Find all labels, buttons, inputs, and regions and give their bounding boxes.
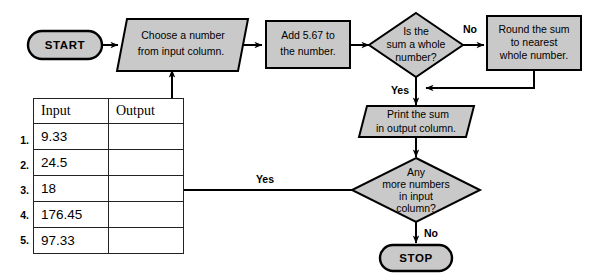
row-number-2: 2. bbox=[11, 159, 29, 171]
add-line-1: Add 5.67 to bbox=[281, 29, 335, 41]
anymore-line-3: in input bbox=[399, 190, 433, 202]
node-any-more-numbers[interactable]: Any more numbers in input column? bbox=[352, 158, 480, 222]
round-line-1: Round the sum bbox=[498, 23, 569, 35]
input-output-table-wrap: Input Output 9.33 24.5 18 176.4 bbox=[33, 98, 184, 254]
stop-label: STOP bbox=[399, 252, 433, 264]
edge-label-anymore-yes: Yes bbox=[256, 173, 274, 185]
print-line-2: in output column. bbox=[376, 122, 456, 134]
cell-output-2[interactable] bbox=[109, 150, 184, 176]
column-header-input: Input bbox=[34, 99, 109, 124]
add-line-2: the number. bbox=[280, 45, 335, 57]
round-line-3: whole number. bbox=[499, 49, 568, 61]
choose-line-2: from input column. bbox=[138, 45, 224, 57]
node-is-sum-whole[interactable]: Is the sum a whole number? bbox=[369, 13, 463, 77]
round-line-2: to nearest bbox=[511, 36, 558, 48]
anymore-line-1: Any bbox=[407, 166, 426, 178]
iswhole-line-3: number? bbox=[395, 51, 437, 63]
row-number-4: 4. bbox=[11, 209, 29, 221]
cell-output-4[interactable] bbox=[109, 202, 184, 228]
edge-label-anymore-no: No bbox=[424, 227, 438, 239]
connector-round-to-yes-junction bbox=[426, 70, 534, 88]
table-row: 97.33 bbox=[34, 228, 184, 254]
node-choose-number[interactable]: Choose a number from input column. bbox=[117, 19, 248, 71]
table-row: 18 bbox=[34, 176, 184, 202]
print-line-1: Print the sum bbox=[387, 108, 449, 120]
table-row: 176.45 bbox=[34, 202, 184, 228]
anymore-line-2: more numbers bbox=[382, 178, 450, 190]
choose-line-1: Choose a number bbox=[141, 29, 225, 41]
table-row: 9.33 bbox=[34, 124, 184, 150]
row-number-1: 1. bbox=[11, 134, 29, 146]
node-round-sum[interactable]: Round the sum to nearest whole number. bbox=[487, 16, 581, 70]
anymore-line-4: column? bbox=[396, 202, 436, 214]
flowchart-page: round --> down to print --> stop --> lef… bbox=[0, 0, 599, 280]
table-row: 24.5 bbox=[34, 150, 184, 176]
cell-input-2: 24.5 bbox=[34, 150, 109, 176]
cell-input-5: 97.33 bbox=[34, 228, 109, 254]
cell-input-3: 18 bbox=[34, 176, 109, 202]
edge-label-iswhole-no: No bbox=[463, 23, 477, 35]
edge-label-iswhole-yes: Yes bbox=[391, 84, 409, 96]
column-header-output: Output bbox=[109, 99, 184, 124]
cell-output-5[interactable] bbox=[109, 228, 184, 254]
iswhole-line-1: Is the bbox=[403, 25, 429, 37]
node-print-sum[interactable]: Print the sum in output column. bbox=[359, 106, 474, 137]
input-output-table: Input Output 9.33 24.5 18 176.4 bbox=[33, 98, 184, 254]
node-start[interactable]: START bbox=[28, 31, 102, 59]
cell-input-4: 176.45 bbox=[34, 202, 109, 228]
cell-output-1[interactable] bbox=[109, 124, 184, 150]
cell-input-1: 9.33 bbox=[34, 124, 109, 150]
iswhole-line-2: sum a whole bbox=[387, 38, 446, 50]
node-add-567[interactable]: Add 5.67 to the number. bbox=[266, 21, 350, 68]
row-number-5: 5. bbox=[11, 234, 29, 246]
row-number-3: 3. bbox=[11, 184, 29, 196]
node-stop[interactable]: STOP bbox=[380, 245, 452, 271]
cell-output-3[interactable] bbox=[109, 176, 184, 202]
table-header-row: Input Output bbox=[34, 99, 184, 124]
start-label: START bbox=[45, 39, 85, 51]
